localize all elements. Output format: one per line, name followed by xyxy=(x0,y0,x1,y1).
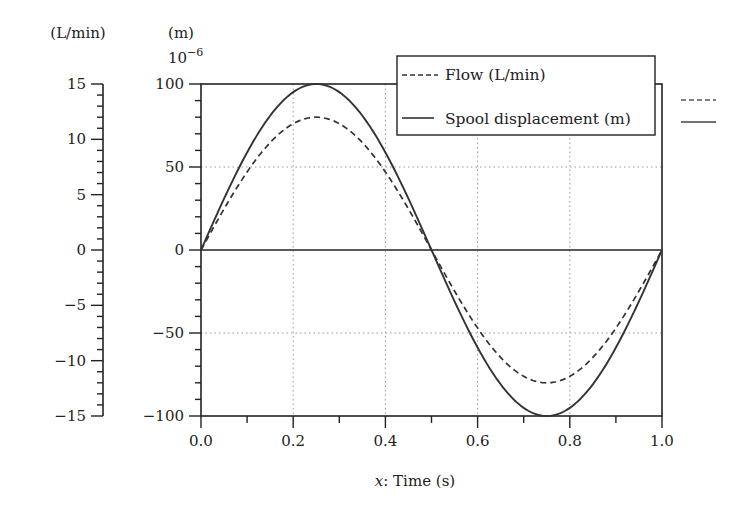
inner-axis-multiplier: 10−6 xyxy=(168,46,203,67)
inner-y-tick-label: −100 xyxy=(143,407,184,425)
inner-y-tick-label: 0 xyxy=(174,241,184,259)
x-tick-label: 0.2 xyxy=(281,432,305,450)
x-tick-label: 1.0 xyxy=(650,432,674,450)
outer-axis-unit-label: (L/min) xyxy=(50,24,105,42)
inner-y-axis: 100500−50−100 xyxy=(143,75,201,425)
outer-y-tick-label: 10 xyxy=(67,130,86,148)
outer-y-tick-label: −5 xyxy=(64,296,86,314)
legend-item-spool: Spool displacement (m) xyxy=(445,110,631,128)
x-tick-label: 0.6 xyxy=(466,432,490,450)
legend-item-flow: Flow (L/min) xyxy=(445,66,546,84)
inner-y-tick-label: 100 xyxy=(155,75,184,93)
x-tick-label: 0.0 xyxy=(189,432,213,450)
inner-axis-unit-label: (m) xyxy=(168,24,194,42)
outer-y-tick-label: 5 xyxy=(76,186,86,204)
outer-y-tick-label: −15 xyxy=(54,407,86,425)
outer-y-tick-label: 15 xyxy=(67,75,86,93)
x-tick-label: 0.4 xyxy=(373,432,397,450)
legend: Flow (L/min) Spool displacement (m) xyxy=(397,56,655,135)
outer-y-tick-label: 0 xyxy=(76,241,86,259)
x-tick-label: 0.8 xyxy=(558,432,582,450)
x-axis-label: x: Time (s) xyxy=(375,472,455,490)
inner-y-tick-label: 50 xyxy=(165,158,184,176)
outer-y-axis: 151050−5−10−15 xyxy=(54,75,103,425)
outer-y-tick-label: −10 xyxy=(54,352,86,370)
x-axis: 0.00.20.40.60.81.0 xyxy=(189,416,674,450)
inner-y-tick-label: −50 xyxy=(152,324,184,342)
chart: (L/min) (m) 10−6 151050−5−10−15 100500−5… xyxy=(0,0,751,515)
